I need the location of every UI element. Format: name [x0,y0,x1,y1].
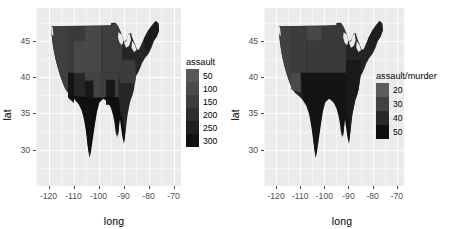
y-axis-tick-label: 30 [238,145,258,155]
legend-color-segment [186,95,199,108]
region-dark-1 [301,73,349,158]
legend-key-label: 300 [203,136,217,146]
legend-title: assault/murder [376,71,437,81]
y-axis-tick [33,41,36,42]
x-axis-tick-label: -120 [267,191,284,201]
y-axis-tick [261,77,264,78]
legend-body: 50100150200250300 [186,69,215,147]
x-axis-tick [124,186,125,189]
legend-key-label: 50 [203,71,213,81]
legend-key-label: 200 [203,110,217,120]
legend-title: assault [186,57,215,67]
region-dark-1 [68,73,74,103]
y-axis-tick [261,41,264,42]
x-axis-tick [324,186,325,189]
x-axis-title: long [228,215,456,227]
x-axis-tick [373,186,374,189]
y-axis-tick-label: 40 [238,72,258,82]
region-dark-5 [71,95,90,157]
region-light-3 [74,41,85,73]
region-light-4 [306,26,321,41]
region-light-1 [52,26,68,93]
legend-color-segment [186,121,199,134]
x-axis-tick-label: -100 [316,191,333,201]
legend-colorbar[interactable] [376,83,389,139]
x-axis-tick [149,186,150,189]
x-axis-tick [174,186,175,189]
region-light-1 [279,26,291,86]
y-axis-tick-label: 35 [238,108,258,118]
legend-key-label: 50 [393,127,403,137]
plot-assault: lat long [0,0,228,229]
y-axis-tick-label: 30 [10,145,30,155]
x-axis-tick-label: -80 [142,191,154,201]
legend-key-label: 20 [393,85,403,95]
x-axis-tick [397,186,398,189]
plot-assault-murder-ratio: lat long [228,0,456,229]
legend-key-label: 30 [393,99,403,109]
legend-assault: assault 50100150200250300 [186,57,215,147]
figure-two-choropleth-maps: lat long [0,0,456,229]
region-light-4 [85,26,102,73]
region-light-5 [306,41,321,73]
x-axis-title: long [0,215,228,227]
plot-panel [36,8,181,186]
y-axis-tick-label: 45 [238,36,258,46]
x-axis-tick-label: -90 [342,191,354,201]
x-axis-tick [99,186,100,189]
legend-body: 20304050 [376,83,437,139]
legend-color-segment [376,83,389,97]
x-axis-tick [49,186,50,189]
y-axis-tick [33,113,36,114]
y-axis-tick-label: 35 [10,108,30,118]
region-light-2 [291,26,306,73]
legend-color-segment [186,69,199,82]
y-axis-tick-label: 45 [10,36,30,46]
legend-color-segment [376,111,389,125]
x-axis-tick-label: -120 [40,191,57,201]
x-axis-tick [276,186,277,189]
x-axis-tick-label: -70 [391,191,403,201]
y-axis-tick [261,113,264,114]
legend-color-segment [186,108,199,121]
region-dark-4 [90,97,125,157]
legend-key-label: 150 [203,97,217,107]
x-axis-tick [300,186,301,189]
region-light-3 [291,73,301,93]
y-axis-tick [33,150,36,151]
legend-assault-murder: assault/murder 20304050 [376,71,437,139]
usa-map-svg [36,8,181,186]
y-axis-tick [261,150,264,151]
usa-map-layer [36,8,181,186]
legend-color-segment [186,82,199,95]
legend-key-label: 100 [203,84,217,94]
legend-color-segment [376,97,389,111]
legend-color-segment [186,134,199,147]
region-light-6 [322,23,346,73]
legend-key-label: 250 [203,123,217,133]
legend-key-label: 40 [393,113,403,123]
x-axis-tick [348,186,349,189]
x-axis-tick-label: -90 [117,191,129,201]
x-axis-tick-label: -70 [167,191,179,201]
y-axis-tick-label: 40 [10,72,30,82]
y-axis-tick [33,77,36,78]
x-axis-tick [74,186,75,189]
legend-colorbar[interactable] [186,69,199,147]
region-light-8 [119,60,137,83]
legend-color-segment [376,125,389,139]
x-axis-tick-label: -80 [366,191,378,201]
x-axis-tick-label: -100 [90,191,107,201]
x-axis-tick-label: -110 [292,191,309,201]
x-axis-tick-label: -110 [65,191,82,201]
